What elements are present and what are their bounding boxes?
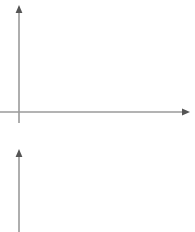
plot-panel-bottom: [0, 130, 195, 232]
x-axis-arrow-icon: [182, 109, 190, 116]
figure-root: [0, 0, 195, 232]
plot-panel-top: [0, 0, 195, 130]
y-axis-arrow-icon: [16, 5, 23, 13]
cropped-curve-chart: [0, 130, 195, 232]
y-axis-arrow-icon-lower: [16, 149, 23, 157]
parabola-chart: [0, 0, 195, 130]
